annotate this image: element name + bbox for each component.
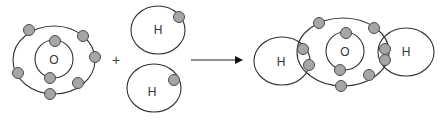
electron <box>50 36 61 47</box>
electron <box>73 78 84 89</box>
electron <box>335 65 346 76</box>
hydrogen-label: H <box>148 85 157 99</box>
hydrogen-atom-top: H <box>131 6 185 54</box>
oxygen-atom-reactant: O <box>13 25 101 100</box>
shared-electron <box>298 44 309 55</box>
electron <box>369 23 380 34</box>
oxygen-label: O <box>49 53 58 67</box>
hydrogen-right-label: H <box>402 45 411 59</box>
electron <box>336 81 347 92</box>
electron <box>314 18 325 29</box>
electron <box>24 25 35 36</box>
oxygen-label: O <box>340 45 349 59</box>
water-molecule-product: H H O <box>254 18 434 92</box>
electron <box>341 28 352 39</box>
plus-sign: + <box>112 52 120 68</box>
shared-electron <box>304 60 315 71</box>
electron <box>45 89 56 100</box>
reaction-arrow <box>191 56 243 64</box>
arrow-head-icon <box>235 56 243 64</box>
electron <box>90 52 101 63</box>
electron <box>169 75 180 86</box>
electron <box>13 68 24 79</box>
electron <box>45 73 56 84</box>
reaction-diagram: O + H H H H O <box>0 0 446 124</box>
shared-electron <box>380 44 391 55</box>
electron <box>174 12 185 23</box>
hydrogen-left-label: H <box>277 55 286 69</box>
electron <box>364 70 375 81</box>
electron <box>78 31 89 42</box>
hydrogen-label: H <box>154 23 163 37</box>
shared-electron <box>380 55 391 66</box>
hydrogen-atom-bottom: H <box>127 64 181 112</box>
